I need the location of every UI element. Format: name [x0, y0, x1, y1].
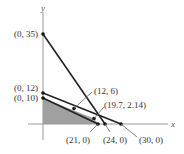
point-0-10 — [41, 96, 45, 100]
label-0-35: (0, 35) — [14, 29, 38, 39]
feasible-region-diagram: y x (0, 35) (0, 12) (0, 10) (12, 6) (19.… — [0, 0, 184, 154]
label-30-0: (30, 0) — [139, 135, 163, 145]
leader-21-0 — [90, 124, 98, 132]
point-0-35 — [41, 32, 45, 36]
leader-24-0 — [105, 124, 110, 132]
label-19.7-2.14: (19.7, 2.14) — [104, 100, 146, 110]
point-0-12 — [41, 91, 45, 95]
x-axis-label: x — [170, 119, 175, 129]
label-21-0: (21, 0) — [66, 135, 90, 145]
label-0-10: (0, 10) — [14, 93, 38, 103]
y-axis-label: y — [40, 3, 45, 13]
label-0-12: (0, 12) — [14, 83, 38, 93]
label-24-0: (24, 0) — [103, 135, 127, 145]
label-12-6: (12, 6) — [94, 86, 118, 96]
